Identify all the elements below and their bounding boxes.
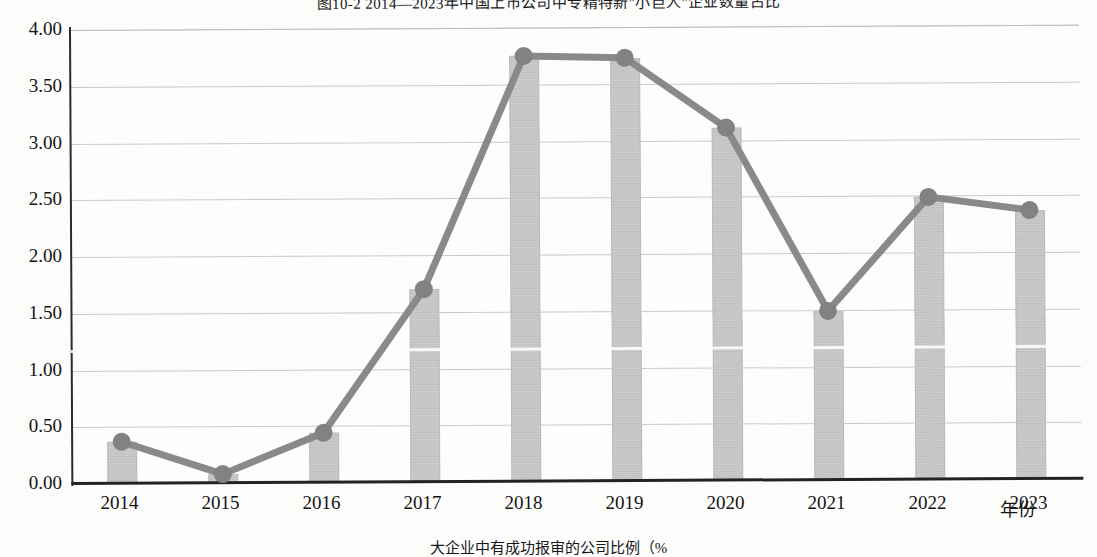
x-tick-label: 2016 [303,492,341,514]
x-tick-label: 2020 [707,492,745,514]
y-tick-label: 2.00 [29,245,62,267]
y-tick-label: 0.50 [29,415,62,437]
y-tick-label: 4.00 [29,18,62,40]
x-axis-title: 年份 [1000,495,1036,521]
x-tick-label: 2021 [808,492,846,514]
plot-frame [69,25,1081,484]
y-tick-label: 3.00 [29,132,62,154]
x-tick-label: 2018 [505,492,543,514]
y-tick-label: 3.50 [29,75,62,97]
data-point-marker [415,280,433,298]
y-tick-label: 2.50 [29,188,62,210]
x-tick-label: 2017 [404,492,442,514]
x-tick-label: 2022 [909,492,947,514]
figure-caption: 大企业中有成功报审的公司比例（% [0,536,1097,557]
data-point-marker [315,424,333,442]
y-tick-label: 1.00 [29,359,62,381]
x-tick-label: 2014 [101,492,139,514]
line-series [69,25,1081,484]
data-point-marker [919,188,937,206]
data-point-marker [515,47,533,65]
data-point-marker [819,302,837,320]
data-point-marker [1020,201,1038,219]
x-tick-label: 2015 [202,492,240,514]
data-point-marker [214,465,232,483]
y-tick-label: 0.00 [29,472,62,494]
y-axis-tick-labels: 0.000.501.001.502.002.503.003.504.00 [0,30,62,484]
data-point-marker [113,433,131,451]
y-tick-label: 1.50 [29,302,62,324]
x-axis-tick-labels: 2014201520162017201820192020202120222023 [69,492,1079,522]
data-point-marker [616,49,634,67]
data-point-marker [717,119,735,137]
x-tick-label: 2019 [606,492,644,514]
